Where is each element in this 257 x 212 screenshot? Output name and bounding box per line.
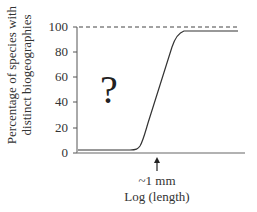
arrow-annotation: ~1 mm (138, 173, 175, 188)
arrow-up-icon (154, 157, 160, 171)
y-axis-label: Percentage of species with distinct biog… (4, 0, 34, 150)
y-axis-label-line2: distinct biogeographies (19, 0, 34, 150)
x-axis-label: Log (length) (124, 189, 189, 204)
ytick-80: 80 (55, 44, 68, 59)
sigmoid-chart: 0 20 40 60 80 100 ? ~1 mm Log (length) (0, 0, 257, 212)
y-tick-labels: 0 20 40 60 80 100 (49, 19, 69, 160)
ytick-0: 0 (62, 145, 69, 160)
ytick-100: 100 (49, 19, 69, 34)
y-ticks (73, 27, 77, 153)
question-mark: ? (100, 67, 118, 112)
ytick-20: 20 (55, 120, 68, 135)
ytick-40: 40 (55, 94, 68, 109)
y-axis-label-line1: Percentage of species with (4, 0, 19, 150)
ytick-60: 60 (55, 69, 68, 84)
